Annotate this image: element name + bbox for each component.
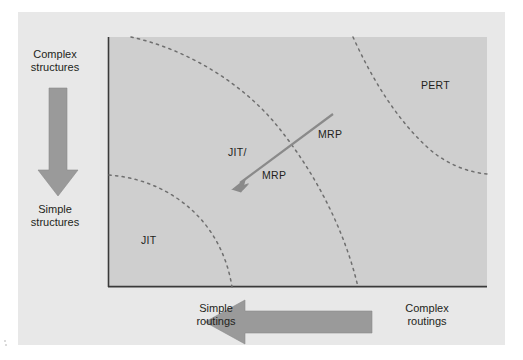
label-complex-routings: Complex routings	[385, 302, 469, 328]
label-simple-routings: Simple routings	[180, 302, 252, 328]
label-simple-routings-line2: routings	[180, 315, 252, 328]
label-complex-routings-line1: Complex	[385, 302, 469, 315]
scan-artifact	[3, 339, 9, 348]
label-simple-structures-line1: Simple	[16, 203, 94, 216]
zone-label-jit: JIT	[141, 234, 156, 246]
zone-label-mrp: MRP	[318, 128, 342, 140]
label-complex-routings-line2: routings	[385, 315, 469, 328]
label-complex-structures-line2: structures	[16, 61, 94, 74]
label-simple-routings-line1: Simple	[180, 302, 252, 315]
zone-label-jit-mrp-bottom: MRP	[262, 169, 286, 181]
zone-label-pert: PERT	[421, 79, 450, 91]
diagram-figure: Complex structures Simple structures Sim…	[0, 0, 523, 360]
vertical-structures-arrow	[38, 88, 78, 196]
label-simple-structures-line2: structures	[16, 216, 94, 229]
label-complex-structures: Complex structures	[16, 48, 94, 74]
zone-label-jit-mrp-top: JIT/	[228, 146, 247, 158]
label-simple-structures: Simple structures	[16, 203, 94, 229]
label-complex-structures-line1: Complex	[16, 48, 94, 61]
